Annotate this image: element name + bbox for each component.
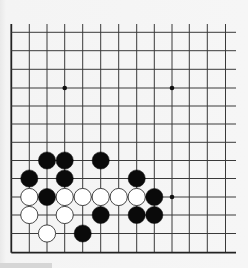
white-stone[interactable]	[92, 188, 109, 205]
black-stone[interactable]	[128, 206, 145, 223]
white-stone[interactable]	[128, 188, 145, 205]
black-stone[interactable]	[56, 152, 73, 169]
black-stone[interactable]	[92, 206, 109, 223]
star-point-icon	[170, 86, 175, 91]
white-stone[interactable]	[21, 206, 38, 223]
star-point-icon	[170, 195, 175, 200]
white-stone[interactable]	[21, 188, 38, 205]
white-stone[interactable]	[38, 225, 55, 242]
black-stone[interactable]	[38, 188, 55, 205]
stones-layer[interactable]	[21, 152, 163, 242]
black-stone[interactable]	[74, 225, 91, 242]
board-grid	[11, 24, 236, 253]
white-stone[interactable]	[56, 188, 73, 205]
white-stone[interactable]	[74, 188, 91, 205]
black-stone[interactable]	[92, 152, 109, 169]
scroll-indicator-bar	[0, 263, 52, 268]
go-board[interactable]	[0, 0, 248, 268]
black-stone[interactable]	[21, 170, 38, 187]
black-stone[interactable]	[128, 170, 145, 187]
white-stone[interactable]	[110, 188, 127, 205]
black-stone[interactable]	[146, 206, 163, 223]
white-stone[interactable]	[56, 206, 73, 223]
star-point-icon	[62, 86, 67, 91]
black-stone[interactable]	[38, 152, 55, 169]
black-stone[interactable]	[56, 170, 73, 187]
black-stone[interactable]	[146, 188, 163, 205]
